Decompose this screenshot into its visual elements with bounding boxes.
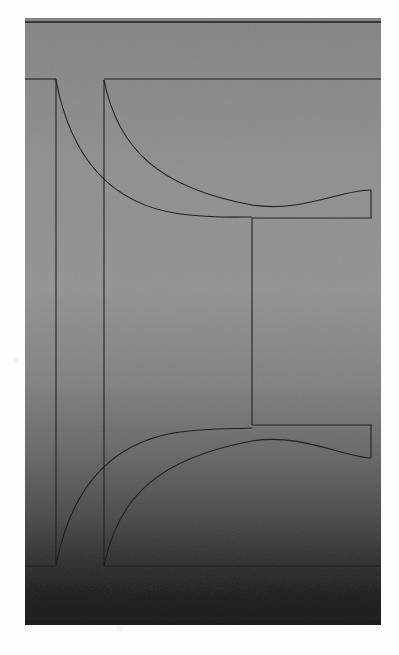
- gray-panel: [25, 18, 381, 625]
- technical-drawing-figure: [0, 0, 399, 655]
- panel-halftone-overlay: [25, 18, 381, 625]
- drawing-canvas: [0, 0, 399, 655]
- scanned-page: [0, 0, 399, 655]
